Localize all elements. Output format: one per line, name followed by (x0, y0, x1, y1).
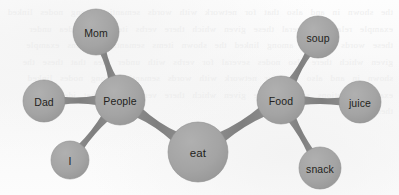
node-people[interactable]: People (95, 75, 145, 125)
edge-people-dad (62, 95, 98, 105)
node-label-mom: Mom (84, 27, 108, 39)
edge-eat-food (218, 106, 266, 142)
node-dad[interactable]: Dad (23, 80, 65, 122)
node-food[interactable]: Food (257, 76, 305, 124)
node-mom[interactable]: Mom (73, 9, 119, 55)
node-label-juice: juice (348, 97, 371, 109)
diagram-canvas: the shown in and also that for network w… (0, 0, 399, 195)
node-label-eat: eat (190, 147, 207, 159)
node-soup[interactable]: soup (297, 16, 339, 58)
node-i[interactable]: I (51, 141, 89, 179)
node-label-soup: soup (306, 32, 329, 44)
node-label-people: People (103, 95, 136, 107)
edge-food-juice (302, 96, 342, 106)
node-label-i: I (68, 155, 71, 167)
node-label-dad: Dad (34, 96, 54, 108)
node-eat[interactable]: eat (168, 122, 228, 182)
node-snack[interactable]: snack (299, 147, 341, 189)
node-label-snack: snack (306, 163, 335, 175)
node-label-food: Food (269, 95, 293, 107)
semantic-network-graph: MomDadIPeopleeatFoodsoupjuicesnack (0, 0, 399, 195)
node-juice[interactable]: juice (339, 81, 381, 123)
